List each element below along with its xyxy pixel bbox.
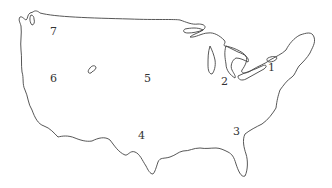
lake-michigan [208, 46, 215, 74]
great-salt-lake [88, 66, 96, 73]
us-outline [19, 11, 314, 176]
puget-sound [30, 15, 34, 25]
region-label-5: 5 [144, 73, 151, 84]
lake-superior [184, 28, 203, 33]
region-label-7: 7 [50, 26, 57, 37]
region-label-3: 3 [233, 126, 240, 137]
region-label-6: 6 [50, 73, 57, 84]
region-label-1: 1 [268, 62, 275, 73]
region-label-4: 4 [138, 130, 145, 141]
region-label-2: 2 [221, 76, 228, 87]
